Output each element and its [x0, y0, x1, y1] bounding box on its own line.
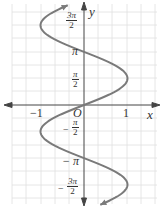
axes — [4, 2, 160, 206]
y-tick-neg-pi-over-2: π 2 — [72, 118, 79, 137]
y-tick-pi: π — [72, 45, 78, 57]
y-tick-neg-3pi-over-2-minus: − — [58, 183, 64, 194]
y-tick-neg-pi-over-2-minus: − — [63, 124, 69, 135]
x-axis-label: x — [147, 108, 153, 121]
y-tick-neg-3pi-over-2: 3π 2 — [67, 177, 78, 196]
x-tick-neg1: −1 — [30, 107, 43, 119]
x-tick-pos1: 1 — [123, 107, 129, 119]
y-tick-pi-over-2: π 2 — [72, 70, 79, 89]
y-tick-neg-pi: − π — [62, 155, 79, 167]
y-tick-3pi-over-2: 3π 2 — [66, 11, 77, 30]
y-axis-label: y — [89, 5, 95, 18]
